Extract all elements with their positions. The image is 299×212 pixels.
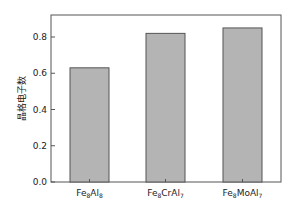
x-tick-label: Fe8CrAl7 xyxy=(147,188,184,199)
y-tick-label: 0.8 xyxy=(33,32,48,42)
bar xyxy=(146,33,185,182)
y-tick-label: 0.2 xyxy=(33,141,47,151)
y-tick-label: 0.0 xyxy=(33,177,48,187)
bar xyxy=(70,68,109,182)
x-tick-label: Fe8MoAl7 xyxy=(223,188,263,199)
x-tick-label: Fe8Al8 xyxy=(76,188,103,199)
y-axis: 0.00.20.40.60.8 xyxy=(33,32,55,187)
bar-chart: 0.00.20.40.60.8 Fe8Al8Fe8CrAl7Fe8MoAl7 晶… xyxy=(0,0,299,212)
y-axis-label: 晶格电子数 xyxy=(16,76,27,121)
y-tick-label: 0.6 xyxy=(33,68,48,78)
bar xyxy=(223,28,262,182)
y-tick-label: 0.4 xyxy=(33,105,48,115)
bars xyxy=(70,28,262,182)
